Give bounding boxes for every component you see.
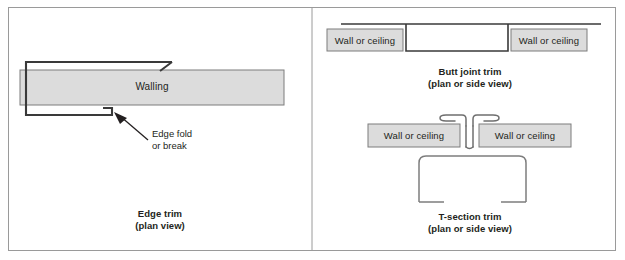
butt-joint-channel	[406, 24, 508, 51]
walling-panel-label: Walling	[135, 81, 168, 92]
butt-joint-trim-caption: Butt joint trim (plan or side view)	[428, 66, 512, 89]
butt-joint-trim-caption-line2: (plan or side view)	[428, 78, 512, 90]
t-section-panel-left-label: Wall or ceiling	[384, 130, 444, 141]
trim-details-figure: Walling Edge fold or break Edge trim (pl…	[0, 0, 625, 260]
edge-fold-callout-line2: or break	[152, 140, 192, 152]
t-section-channel-body	[419, 156, 526, 202]
t-section-stem-base	[466, 147, 473, 149]
t-section-trim-caption-line1: T-section trim	[428, 211, 512, 223]
butt-joint-panel-right-label: Wall or ceiling	[519, 35, 579, 46]
edge-fold-arrowhead	[114, 112, 127, 124]
edge-fold-callout-line1: Edge fold	[152, 128, 192, 140]
edge-trim-caption: Edge trim (plan view)	[135, 208, 185, 231]
t-section-trim-caption-line2: (plan or side view)	[428, 223, 512, 235]
t-section-trim-caption: T-section trim (plan or side view)	[428, 211, 512, 234]
edge-fold-callout: Edge fold or break	[152, 128, 192, 151]
butt-joint-panel-left-label: Wall or ceiling	[335, 35, 395, 46]
edge-trim-caption-line1: Edge trim	[135, 208, 185, 220]
t-section-trim-drawing	[368, 115, 571, 202]
edge-trim-caption-line2: (plan view)	[135, 220, 185, 232]
t-section-panel-right-label: Wall or ceiling	[495, 130, 555, 141]
butt-joint-trim-caption-line1: Butt joint trim	[428, 66, 512, 78]
